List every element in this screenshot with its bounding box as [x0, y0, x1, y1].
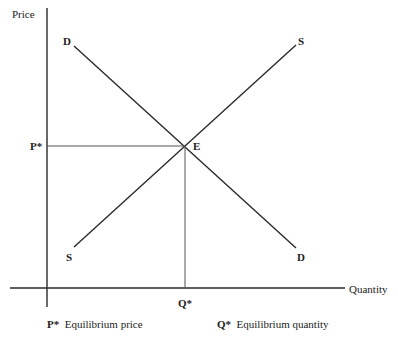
y-axis-label: Price — [12, 8, 35, 20]
legend-item-price: P* Equilibrium price — [47, 318, 143, 330]
supply-label-top: S — [298, 35, 304, 47]
diagram-canvas — [0, 0, 398, 343]
legend-symbol: P* — [47, 318, 59, 330]
x-axis-label: Quantity — [349, 283, 388, 295]
demand-label-top: D — [63, 35, 71, 47]
supply-label-bottom: S — [66, 251, 72, 263]
quantity-tick-label: Q* — [178, 297, 192, 309]
legend-text: Equilibrium quantity — [237, 318, 329, 330]
legend-item-quantity: Q* Equilibrium quantity — [217, 318, 329, 330]
legend-symbol: Q* — [217, 318, 231, 330]
demand-label-bottom: D — [297, 251, 305, 263]
equilibrium-point-label: E — [193, 140, 200, 152]
legend-text: Equilibrium price — [65, 318, 143, 330]
price-tick-label: P* — [30, 140, 42, 152]
